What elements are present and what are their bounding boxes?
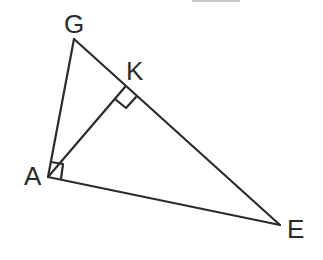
label-G: G	[64, 11, 84, 37]
label-K: K	[126, 58, 143, 84]
top-rule	[192, 0, 240, 2]
diagram-canvas: G K A E	[0, 0, 323, 260]
segment-GE	[74, 39, 280, 225]
label-A: A	[24, 163, 41, 189]
right-angle-marker-K	[115, 97, 136, 108]
segment-GA	[48, 39, 74, 177]
segment-AE	[48, 177, 280, 225]
label-E: E	[287, 216, 304, 242]
triangle-figure	[0, 0, 323, 260]
